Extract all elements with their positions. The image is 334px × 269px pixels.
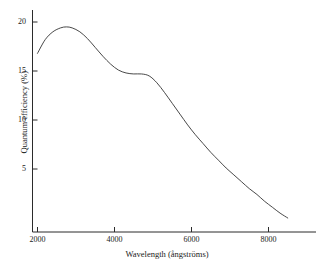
x-axis-ticks [38, 227, 269, 232]
x-tick-label-4000: 4000 [95, 236, 135, 244]
chart-figure: 20 15 10 5 2000 4000 6000 8000 Wavelengt… [0, 0, 334, 269]
y-tick-label-20: 20 [4, 18, 26, 26]
y-axis-title: Quantum efficiency (%) [20, 42, 29, 182]
plot-canvas [0, 0, 334, 269]
x-tick-label-8000: 8000 [249, 236, 289, 244]
y-axis-ticks [33, 22, 38, 169]
x-tick-label-2000: 2000 [18, 236, 58, 244]
quantum-efficiency-curve [38, 27, 288, 218]
x-tick-label-6000: 6000 [172, 236, 212, 244]
x-axis-title: Wavelength (ångströms) [0, 250, 334, 259]
